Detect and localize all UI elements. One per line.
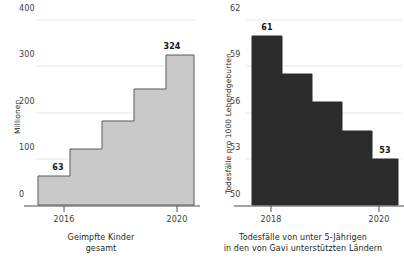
caption-left-line2: gesamt — [0, 243, 202, 254]
ytick-label-left-300: 300 — [19, 50, 35, 59]
bars-right — [252, 36, 398, 205]
caption-left: Geimpfte Kinder gesamt — [0, 232, 202, 254]
y-axis-title-left: Millionen — [13, 100, 22, 134]
value-label-left-last: 324 — [152, 42, 192, 51]
y-axis-title-right: Todesfälle pro 1000 Lebendgeburten — [224, 53, 233, 194]
xtick-label-right-2020: 2020 — [359, 215, 399, 224]
ytick-label-left-100: 100 — [19, 143, 35, 152]
xtick-label-left-2016: 2016 — [44, 215, 84, 224]
value-label-left-first: 63 — [44, 163, 72, 172]
caption-right-line2: in den von Gavi unterstützten Ländern — [202, 243, 404, 254]
caption-left-line1: Geimpfte Kinder — [0, 232, 202, 243]
caption-right-line1: Todesfälle von unter 5-Jährigen — [202, 232, 404, 243]
x-axis-right — [234, 206, 404, 212]
dual-bar-chart-figure: 400 300 200 100 0 Millionen 63 324 2016 … — [0, 0, 404, 263]
caption-right: Todesfälle von unter 5-Jährigen in den v… — [202, 232, 404, 254]
bars-left — [38, 55, 194, 205]
value-label-right-first: 61 — [253, 23, 281, 32]
chart-panel-under5-deaths: 62 59 56 53 50 Todesfälle pro 1000 Leben… — [202, 0, 404, 263]
xtick-label-left-2020: 2020 — [157, 215, 197, 224]
ytick-label-left-0: 0 — [19, 190, 24, 199]
x-axis-left — [24, 206, 200, 212]
ytick-label-left-400: 400 — [19, 4, 35, 13]
value-label-right-last: 53 — [371, 146, 399, 155]
ytick-label-right-62: 62 — [230, 4, 240, 13]
xtick-label-right-2018: 2018 — [251, 215, 291, 224]
chart-panel-vaccinated-children: 400 300 200 100 0 Millionen 63 324 2016 … — [0, 0, 202, 263]
